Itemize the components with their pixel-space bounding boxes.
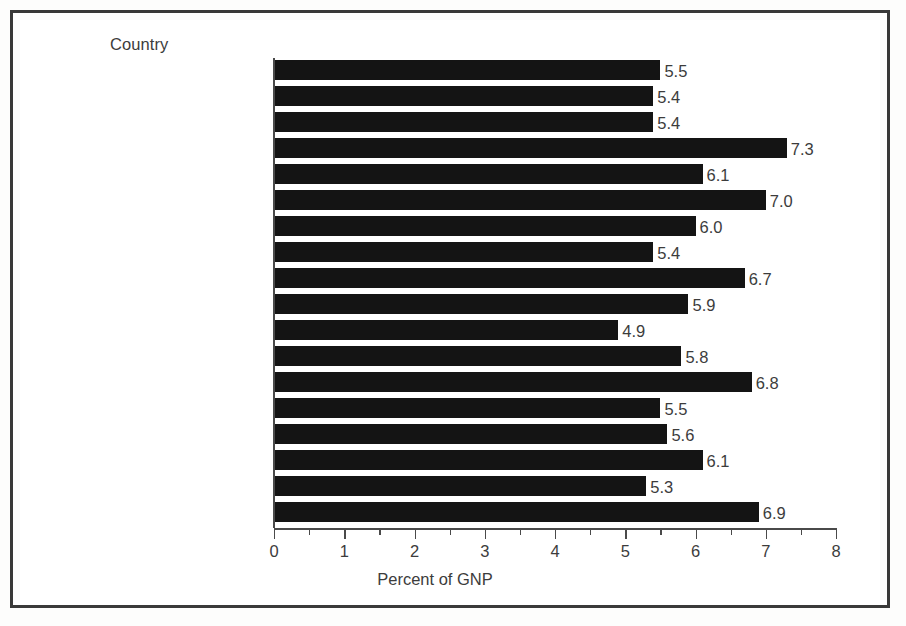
x-tick-label: 2: [410, 542, 419, 561]
bar: [274, 450, 703, 470]
bar: [274, 372, 752, 392]
x-tick-label: 7: [761, 542, 770, 561]
x-tick-major: [274, 528, 275, 539]
x-tick-minor: [309, 528, 310, 535]
category-axis-header: Country: [110, 35, 168, 54]
bar: [274, 424, 667, 444]
bar: [274, 268, 745, 288]
x-tick-major: [485, 528, 486, 539]
plot-area: Country Australia5.5Austria15.4Belgium5.…: [0, 0, 906, 626]
bar: [274, 138, 787, 158]
x-tick-label: 0: [269, 542, 278, 561]
x-tick-label: 8: [831, 542, 840, 561]
y-axis-line: [273, 58, 275, 528]
x-tick-label: 3: [480, 542, 489, 561]
x-tick-label: 4: [550, 542, 559, 561]
x-tick-major: [696, 528, 697, 539]
x-tick-minor: [660, 528, 661, 535]
bar: [274, 60, 660, 80]
bar: [274, 112, 653, 132]
bar-value-label: 6.1: [703, 451, 730, 471]
chart-figure: Country Australia5.5Austria15.4Belgium5.…: [0, 0, 906, 626]
bar-value-label: 5.4: [653, 87, 680, 107]
bar-value-label: 6.8: [752, 373, 779, 393]
bar-value-label: 5.5: [660, 61, 687, 81]
x-tick-minor: [450, 528, 451, 535]
bar: [274, 86, 653, 106]
bar: [274, 190, 766, 210]
bar: [274, 216, 696, 236]
bar-value-label: 6.7: [745, 269, 772, 289]
bar: [274, 242, 653, 262]
bar-value-label: 5.4: [653, 243, 680, 263]
bar: [274, 476, 646, 496]
x-tick-major: [344, 528, 345, 539]
x-tick-label: 5: [621, 542, 630, 561]
x-tick-major: [555, 528, 556, 539]
x-tick-major: [836, 528, 837, 539]
x-tick-minor: [590, 528, 591, 535]
bar-value-label: 5.6: [667, 425, 694, 445]
bar: [274, 294, 688, 314]
bar-value-label: 5.8: [681, 347, 708, 367]
x-tick-minor: [731, 528, 732, 535]
bar-value-label: 6.1: [703, 165, 730, 185]
bar-value-label: 5.3: [646, 477, 673, 497]
bar-value-label: 7.0: [766, 191, 793, 211]
bar: [274, 320, 618, 340]
x-tick-major: [766, 528, 767, 539]
x-axis-title: Percent of GNP: [0, 570, 906, 589]
bar-value-label: 7.3: [787, 139, 814, 159]
bar: [274, 346, 681, 366]
x-tick-minor: [520, 528, 521, 535]
bar-value-label: 6.0: [696, 217, 723, 237]
bar-value-label: 5.4: [653, 113, 680, 133]
bar-value-label: 6.9: [759, 503, 786, 523]
bar: [274, 502, 759, 522]
x-tick-label: 6: [691, 542, 700, 561]
bar: [274, 164, 703, 184]
x-tick-label: 1: [340, 542, 349, 561]
bar-value-label: 5.9: [688, 295, 715, 315]
bar-value-label: 5.5: [660, 399, 687, 419]
bar: [274, 398, 660, 418]
x-tick-major: [625, 528, 626, 539]
x-tick-major: [415, 528, 416, 539]
bar-value-label: 4.9: [618, 321, 645, 341]
x-axis-title-text: Percent of GNP: [377, 570, 493, 588]
x-tick-minor: [379, 528, 380, 535]
x-tick-minor: [801, 528, 802, 535]
